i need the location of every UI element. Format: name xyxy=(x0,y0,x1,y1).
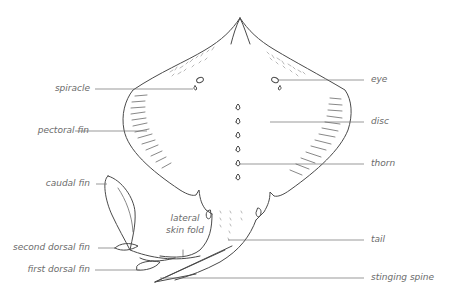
thorn-row xyxy=(236,104,240,180)
label-pectoral-fin: pectoral fin xyxy=(38,126,89,135)
label-eye: eye xyxy=(371,75,387,84)
label-thorn: thorn xyxy=(371,159,395,168)
label-first-dorsal-fin: first dorsal fin xyxy=(27,265,90,274)
spiracle-left xyxy=(194,86,197,90)
label-stinging-spine: stinging spine xyxy=(371,273,434,282)
pectoral-fin-rays-right xyxy=(290,98,342,175)
label-tail: tail xyxy=(371,235,385,244)
label-second-dorsal-fin: second dorsal fin xyxy=(13,243,90,252)
leader-lines xyxy=(75,80,364,278)
stinging-spine xyxy=(155,246,232,282)
eye-left xyxy=(196,76,204,83)
eye-right xyxy=(271,76,279,83)
label-disc: disc xyxy=(371,117,389,126)
label-caudal-fin: caudal fin xyxy=(46,179,90,188)
pectoral-fin-rays-left xyxy=(131,95,171,168)
pelvic-fins xyxy=(206,208,261,219)
label-lateral-skin-fold-line1: lateral xyxy=(160,214,210,223)
spiracle-right xyxy=(278,86,281,90)
tail-texture xyxy=(220,211,242,240)
label-spiracle: spiracle xyxy=(55,84,90,93)
label-lateral-skin-fold-line2: skin fold xyxy=(160,226,210,235)
label-lateral-skin-fold: lateral skin fold xyxy=(160,214,210,235)
stingray-diagram xyxy=(0,0,449,298)
skin-texture xyxy=(170,47,305,76)
